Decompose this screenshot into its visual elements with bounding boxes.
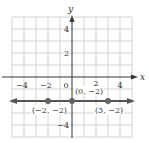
point-3-neg2 xyxy=(105,98,111,104)
point-label: (0, −2) xyxy=(75,87,103,96)
line-right-arrow-icon xyxy=(127,98,135,104)
y-axis-label: y xyxy=(67,4,74,14)
y-axis-arrow-icon xyxy=(70,15,75,22)
point-0-neg2 xyxy=(69,98,75,104)
x-axis-arrow-icon xyxy=(131,75,138,80)
point-label: (−2, −2) xyxy=(32,106,67,115)
point-label: (3, −2) xyxy=(95,106,123,115)
y-tick: −4 xyxy=(57,121,69,130)
x-tick: −4 xyxy=(16,81,28,90)
y-tick: 4 xyxy=(64,25,69,34)
x-axis xyxy=(2,75,138,80)
y-tick: 2 xyxy=(64,49,69,58)
coordinate-graph: x y −4 −2 0 2 4 4 2 −4 (0, −2) (−2, −2) … xyxy=(0,0,149,143)
x-tick: −2 xyxy=(40,81,52,90)
x-axis-label: x xyxy=(140,72,145,82)
point-neg2-neg2 xyxy=(45,98,51,104)
x-tick: 4 xyxy=(117,81,122,90)
x-tick-labels: −4 −2 0 2 4 xyxy=(16,79,122,90)
line-left-arrow-icon xyxy=(9,98,17,104)
x-tick: 0 xyxy=(63,81,68,90)
